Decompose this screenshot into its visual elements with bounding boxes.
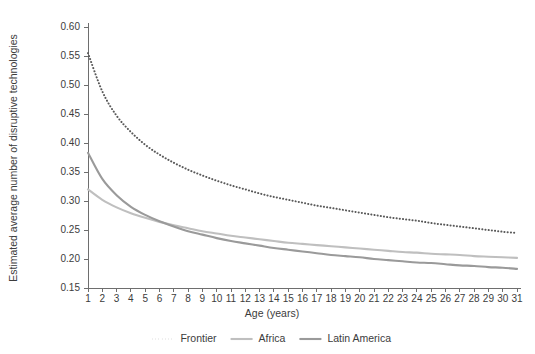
x-tick-label: 7 bbox=[171, 293, 177, 304]
x-tick-label: 19 bbox=[340, 293, 352, 304]
x-tick-label: 30 bbox=[497, 293, 509, 304]
y-tick-label: 0.50 bbox=[61, 79, 81, 90]
x-tick-label: 11 bbox=[226, 293, 237, 304]
x-tick-label: 13 bbox=[254, 293, 266, 304]
x-tick-label: 6 bbox=[157, 293, 163, 304]
x-tick-label: 20 bbox=[354, 293, 366, 304]
x-tick-label: 14 bbox=[268, 293, 280, 304]
x-tick-label: 4 bbox=[128, 293, 134, 304]
x-tick-label: 1 bbox=[85, 293, 91, 304]
x-tick-label: 25 bbox=[426, 293, 438, 304]
y-axis-title: Estimated average number of disruptive t… bbox=[7, 34, 19, 281]
x-axis-title: Age (years) bbox=[245, 307, 299, 319]
x-tick-label: 26 bbox=[440, 293, 452, 304]
x-tick-label: 17 bbox=[311, 293, 323, 304]
x-tick-label: 21 bbox=[368, 293, 380, 304]
y-tick-label: 0.15 bbox=[61, 282, 81, 293]
legend-label-africa: Africa bbox=[259, 332, 286, 344]
x-tick-label: 28 bbox=[469, 293, 481, 304]
chart-figure: Estimated average number of disruptive t… bbox=[0, 0, 535, 354]
x-tick-label: 24 bbox=[411, 293, 423, 304]
y-tick-label: 0.55 bbox=[61, 50, 81, 61]
chart-legend: FrontierAfricaLatin America bbox=[152, 332, 391, 344]
x-tick-label: 27 bbox=[454, 293, 466, 304]
y-tick-label: 0.40 bbox=[61, 137, 81, 148]
y-tick-label: 0.35 bbox=[61, 166, 81, 177]
y-tick-label: 0.30 bbox=[61, 195, 81, 206]
y-tick-label: 0.25 bbox=[61, 224, 81, 235]
x-tick-label: 8 bbox=[185, 293, 191, 304]
legend-label-latin-america: Latin America bbox=[327, 332, 391, 344]
x-tick-label: 29 bbox=[483, 293, 495, 304]
x-tick-label: 23 bbox=[397, 293, 409, 304]
y-tick-label: 0.20 bbox=[61, 253, 81, 264]
x-tick-label: 2 bbox=[100, 293, 106, 304]
x-tick-label: 31 bbox=[511, 293, 523, 304]
y-tick-label: 0.45 bbox=[61, 108, 81, 119]
x-tick-label: 5 bbox=[142, 293, 148, 304]
y-tick-label: 0.60 bbox=[61, 21, 81, 32]
legend-label-frontier: Frontier bbox=[180, 332, 217, 344]
x-tick-label: 9 bbox=[200, 293, 206, 304]
x-tick-label: 15 bbox=[283, 293, 295, 304]
x-tick-label: 22 bbox=[383, 293, 395, 304]
x-tick-label: 12 bbox=[240, 293, 252, 304]
x-tick-label: 16 bbox=[297, 293, 309, 304]
x-tick-label: 10 bbox=[211, 293, 223, 304]
x-tick-label: 3 bbox=[114, 293, 120, 304]
x-tick-label: 18 bbox=[326, 293, 338, 304]
